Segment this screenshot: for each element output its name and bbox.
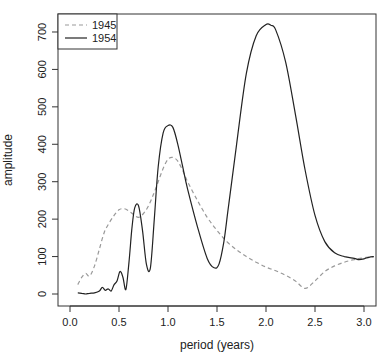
y-tick-label: 400 [36, 135, 48, 153]
y-tick-label: 0 [36, 291, 48, 297]
y-tick-label: 100 [36, 247, 48, 265]
plot-frame [58, 14, 376, 306]
x-tick-label: 0.5 [111, 316, 126, 328]
y-tick-label: 600 [36, 60, 48, 78]
x-tick-label: 2.5 [307, 316, 322, 328]
x-tick-label: 3.0 [356, 316, 371, 328]
y-axis: 0100200300400500600700 [36, 23, 58, 297]
x-tick-label: 0.0 [62, 316, 77, 328]
y-axis-label: amplitude [1, 134, 15, 186]
x-axis: 0.00.51.01.52.02.53.0 [62, 306, 371, 328]
legend: 1945 1954 [58, 14, 117, 49]
x-axis-label: period (years) [180, 338, 254, 352]
series-line-1945 [78, 157, 374, 288]
x-tick-label: 1.0 [160, 316, 175, 328]
x-tick-label: 1.5 [209, 316, 224, 328]
chart-canvas: 0.00.51.01.52.02.53.0 010020030040050060… [0, 0, 391, 362]
y-tick-label: 700 [36, 23, 48, 41]
legend-label-1954: 1954 [92, 32, 116, 44]
y-tick-label: 500 [36, 98, 48, 116]
series-layer [78, 24, 374, 294]
y-tick-label: 200 [36, 210, 48, 228]
x-tick-label: 2.0 [258, 316, 273, 328]
legend-label-1945: 1945 [92, 19, 116, 31]
series-line-1954 [78, 24, 374, 294]
y-tick-label: 300 [36, 173, 48, 191]
